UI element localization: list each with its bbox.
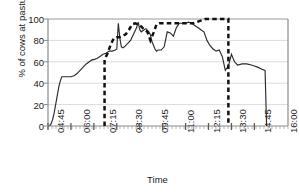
axis-lines — [48, 19, 288, 126]
plot-area — [0, 0, 299, 193]
series-line-observed — [50, 22, 267, 126]
chart-figure: % of cows at pasture 100 80 60 40 20 0 0… — [0, 0, 299, 193]
x-axis-minor-ticks — [48, 126, 288, 129]
